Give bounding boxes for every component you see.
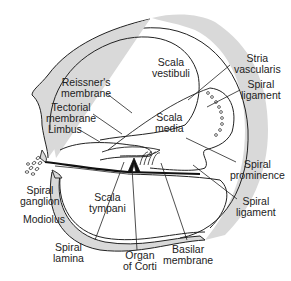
spiral-ganglion-cells xyxy=(25,156,42,175)
label-spiral-ganglion: Spiralganglion xyxy=(20,185,60,207)
label-spiral-lamina: Spirallamina xyxy=(53,242,84,264)
cochlea-illustration xyxy=(0,0,291,281)
label-spiral-prominence: Spiralprominence xyxy=(230,159,285,181)
spiral-lamina-line xyxy=(45,162,200,174)
label-reissners-membrane: Reissner'smembrane xyxy=(61,77,111,99)
label-scala-media: Scalamedia xyxy=(155,112,184,134)
pillar-cells xyxy=(128,158,140,172)
label-spiral-ligament-lower: Spiralligament xyxy=(236,196,276,218)
label-spiral-ligament-upper: Spiralligament xyxy=(241,79,281,101)
label-scala-vestibuli: Scalavestibuli xyxy=(152,57,190,79)
label-modiolus: Modiolus xyxy=(23,214,65,225)
cochlea-diagram: Scalavestibuli Reissner'smembrane Tector… xyxy=(0,0,291,281)
label-basilar-membrane: Basilarmembrane xyxy=(163,244,213,266)
basilar-membrane xyxy=(128,174,227,228)
modiolus-spur xyxy=(40,150,46,162)
scala-tympani-outline xyxy=(60,178,205,240)
label-organ-of-corti: Organof Corti xyxy=(123,250,157,272)
label-stria-vascularis: Striavascularis xyxy=(234,53,281,75)
label-scala-tympani: Scalatympani xyxy=(89,192,126,214)
label-tectorial-membrane: Tectorialmembrane xyxy=(46,102,96,124)
limbus xyxy=(60,143,151,160)
stria-vascularis-dots xyxy=(207,92,224,137)
organ-of-corti-cells xyxy=(140,152,160,165)
label-limbus: Limbus xyxy=(48,124,82,135)
